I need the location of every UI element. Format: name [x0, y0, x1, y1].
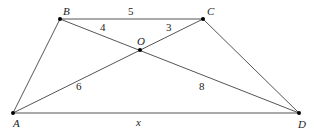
- point-b: [58, 17, 62, 21]
- point-a: [11, 111, 15, 115]
- length-ao: 6: [76, 80, 82, 92]
- label-d: D: [297, 118, 306, 130]
- label-b: B: [63, 5, 70, 17]
- side-ab: [13, 19, 60, 113]
- label-c: C: [207, 5, 215, 17]
- label-o: O: [137, 35, 145, 47]
- length-bc: 5: [128, 5, 134, 17]
- diagonal-bd: [60, 19, 299, 113]
- point-d: [297, 111, 301, 115]
- length-ad: x: [135, 116, 141, 128]
- diagonal-ac: [13, 19, 203, 113]
- length-od: 8: [199, 80, 205, 92]
- length-oc: 3: [166, 21, 172, 33]
- point-o: [138, 48, 142, 52]
- side-cd: [203, 19, 299, 113]
- trapezoid-diagram: B C O A D 5 4 3 6 8 x: [0, 0, 313, 130]
- point-c: [201, 17, 205, 21]
- label-a: A: [12, 117, 20, 129]
- length-bo: 4: [100, 21, 106, 33]
